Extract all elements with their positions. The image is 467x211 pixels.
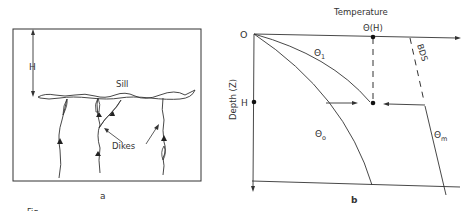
theta-h-label: Θ(H) xyxy=(363,23,383,33)
figure-canvas: H Sill Dikes a Fig. Temperature Θ(H) O H… xyxy=(0,0,467,211)
thetam-profile xyxy=(425,106,446,195)
theta-h-point xyxy=(371,35,376,40)
figure-caption-fragment: Fig. xyxy=(27,208,41,211)
thetam-label: Θ m xyxy=(434,130,447,143)
dike-2-branch xyxy=(99,100,121,128)
axis-arrowhead-icon xyxy=(455,36,461,40)
arrowhead-right-icon xyxy=(352,101,358,105)
panel-a-frame xyxy=(13,29,201,181)
temperature-axis-label: Temperature xyxy=(333,7,388,17)
upward-flow-arrow-icon xyxy=(57,138,63,144)
arrow-from-thetam xyxy=(388,104,425,105)
panel-b-caption: b xyxy=(351,195,358,205)
upward-flow-arrow-icon xyxy=(161,135,167,141)
svg-text:o: o xyxy=(322,134,326,142)
svg-text:1: 1 xyxy=(321,53,325,61)
depth-h-point xyxy=(252,100,257,105)
theta0-label: Θ o xyxy=(315,129,326,142)
panel-a xyxy=(13,29,201,181)
depth-axis-label: Depth (Z) xyxy=(228,79,238,120)
svg-text:m: m xyxy=(441,135,447,143)
bottom-boundary xyxy=(252,181,460,187)
temperature-axis xyxy=(254,34,457,38)
bds-label: BDS xyxy=(415,43,430,63)
upward-flow-arrow-icon xyxy=(96,112,102,117)
depth-axis xyxy=(253,34,254,188)
arrowhead-left-icon xyxy=(383,102,389,106)
dikes-label: Dikes xyxy=(112,141,136,151)
panel-a-h-label: H xyxy=(29,62,36,72)
arrowhead-up-icon xyxy=(31,29,35,35)
sill-label: Sill xyxy=(116,79,128,89)
dikes-leader-line-right xyxy=(146,127,157,144)
arrowhead-down-icon xyxy=(31,91,35,97)
theta1-curve xyxy=(254,34,370,102)
sill-temperature-point xyxy=(371,101,376,106)
panel-a-caption: a xyxy=(100,191,106,201)
arrowhead-icon xyxy=(104,128,109,133)
panel-b-h-label: H xyxy=(241,98,248,108)
upward-flow-arrow-icon xyxy=(95,151,101,156)
origin-label: O xyxy=(240,29,247,40)
axis-arrowhead-icon xyxy=(251,186,255,192)
sill-shape xyxy=(38,90,195,99)
arrowhead-icon xyxy=(154,124,159,130)
theta1-label: Θ 1 xyxy=(314,48,325,61)
